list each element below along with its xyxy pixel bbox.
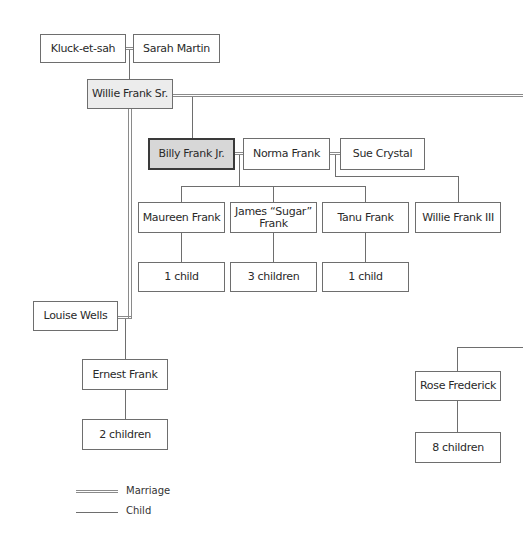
marriage-line-willie-sr-right [173, 94, 523, 97]
child-line-willie-iii [458, 176, 459, 202]
person-willie-frank-sr: Willie Frank Sr. [87, 79, 173, 109]
legend-marriage-label: Marriage [126, 485, 170, 496]
person-louise-wells: Louise Wells [33, 301, 118, 331]
legend-child-swatch [76, 512, 118, 513]
child-line-maureen [181, 186, 182, 202]
james-name-line1: James “Sugar” [235, 206, 312, 218]
person-james-sugar-frank: James “Sugar” Frank [230, 202, 317, 233]
rose-branch-bar [457, 347, 523, 348]
person-tanu-frank: Tanu Frank [322, 202, 409, 233]
child-line-rose [457, 347, 458, 371]
descendants-ernest: 2 children [82, 419, 168, 450]
person-sarah-martin: Sarah Martin [133, 34, 220, 63]
child-line-billy-norma [239, 155, 240, 186]
desc-line-james [273, 233, 274, 262]
child-line-ernest [125, 319, 126, 359]
child-line-tanu [365, 186, 366, 202]
desc-line-maureen [181, 233, 182, 262]
descendants-tanu: 1 child [322, 262, 409, 292]
person-sue-crystal: Sue Crystal [340, 138, 425, 170]
desc-line-rose [457, 401, 458, 432]
legend-child-label: Child [126, 505, 151, 516]
person-rose-frederick: Rose Frederick [415, 371, 501, 401]
descendants-maureen: 1 child [138, 262, 225, 292]
descendants-rose: 8 children [415, 432, 501, 463]
person-maureen-frank: Maureen Frank [138, 202, 225, 233]
descendants-james: 3 children [230, 262, 317, 292]
person-willie-frank-iii: Willie Frank III [415, 202, 501, 233]
desc-line-tanu [365, 233, 366, 262]
child-line-norma-sue [335, 155, 336, 176]
person-billy-frank-jr: Billy Frank Jr. [148, 138, 235, 170]
willie-iii-bar [335, 176, 458, 177]
child-line-billy [192, 97, 193, 138]
james-name-line2: Frank [259, 218, 288, 230]
legend-marriage-swatch [76, 490, 118, 493]
person-norma-frank: Norma Frank [243, 138, 330, 170]
person-kluck-et-sah: Kluck-et-sah [40, 34, 126, 63]
child-line-james [273, 186, 274, 202]
child-line-willie-sr [129, 50, 130, 79]
marriage-line-willie-sr-louise [128, 109, 132, 319]
person-ernest-frank: Ernest Frank [82, 359, 168, 390]
child-line-ernest-descendants [125, 390, 126, 419]
